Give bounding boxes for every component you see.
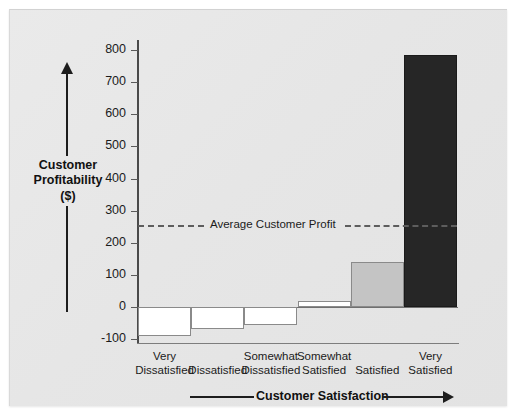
bar xyxy=(138,307,191,336)
x-axis-category-label: VerySatisfied xyxy=(396,350,465,377)
bar xyxy=(244,307,297,325)
y-axis-tick-label: 200 xyxy=(80,236,126,249)
x-axis-category-label-line: Satisfied xyxy=(396,364,465,378)
y-axis-tick xyxy=(131,243,138,244)
y-axis-tick-label: 700 xyxy=(80,75,126,88)
average-profit-line-right xyxy=(345,225,457,227)
x-axis-category-label-line: Very xyxy=(396,350,465,364)
y-axis-tick-label: 500 xyxy=(80,139,126,152)
x-axis-title-row: Customer Satisfaction xyxy=(160,389,460,405)
y-axis-ticks: 8007006005004003002001000-100 xyxy=(10,10,138,406)
y-axis-tick xyxy=(131,339,138,340)
x-axis-line xyxy=(137,343,459,344)
bar xyxy=(298,301,351,307)
y-axis-tick xyxy=(131,275,138,276)
y-axis-tick xyxy=(131,211,138,212)
average-profit-line-left xyxy=(138,225,204,227)
y-axis-tick-label: 300 xyxy=(80,204,126,217)
average-profit-label: Average Customer Profit xyxy=(210,218,336,230)
x-axis-title: Customer Satisfaction xyxy=(256,389,389,403)
y-axis-tick xyxy=(131,146,138,147)
y-axis-tick-label: 800 xyxy=(80,43,126,56)
y-axis-tick xyxy=(131,179,138,180)
y-axis-tick-label: -100 xyxy=(80,332,126,345)
y-axis-tick xyxy=(131,307,138,308)
x-axis-title-rule-left xyxy=(190,396,254,398)
x-axis-category-labels: VeryDissatisfied DissatisfiedSomewhatDis… xyxy=(138,350,458,384)
x-axis-arrow-head-icon xyxy=(443,391,454,403)
chart-figure: Customer Profitability ($) 8007006005004… xyxy=(9,9,507,406)
bar xyxy=(351,262,404,307)
y-axis-tick-label: 600 xyxy=(80,107,126,120)
y-axis-tick-label: 0 xyxy=(80,300,126,313)
x-axis-title-rule-right xyxy=(382,396,444,398)
bar xyxy=(404,55,457,307)
plot-area: Average Customer Profit xyxy=(138,40,457,340)
y-axis-tick-label: 100 xyxy=(80,268,126,281)
y-axis-tick xyxy=(131,82,138,83)
y-axis-tick xyxy=(131,50,138,51)
bar xyxy=(191,307,244,329)
y-axis-tick xyxy=(131,114,138,115)
y-axis-tick-label: 400 xyxy=(80,172,126,185)
